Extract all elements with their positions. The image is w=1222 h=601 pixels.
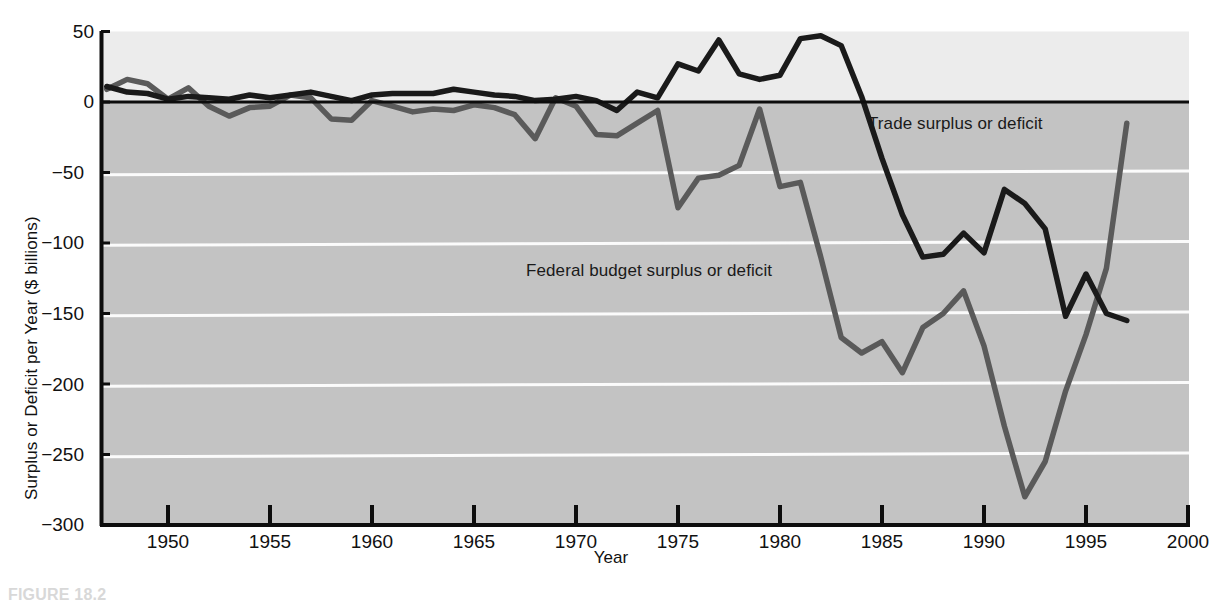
chart-plot-area [0,0,1222,601]
x-axis-title: Year [0,548,1222,568]
annotation-federal-budget-surplus-or-deficit: Federal budget surplus or deficit [526,261,772,281]
y-axis-title: Surplus or Deficit per Year ($ billions) [22,216,42,500]
ytick-label: 0 [24,91,94,113]
annotation-trade-surplus-or-deficit: Trade surplus or deficit [868,114,1043,134]
figure-caption: FIGURE 18.2 [8,586,106,601]
ytick-label: −50 [14,162,84,184]
figure-container: 50 0 −50 −100 −150 −200 −250 −300 195019… [0,0,1222,601]
ytick-label: 50 [24,21,94,43]
ytick-label: −300 [14,514,84,536]
